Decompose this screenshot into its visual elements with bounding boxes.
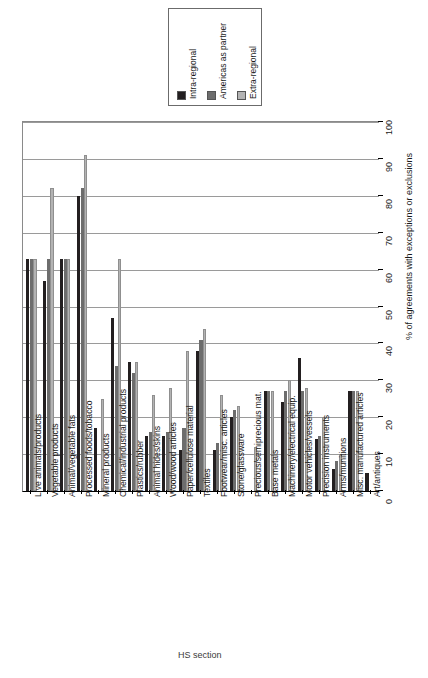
value-tick-label-text: 90 (384, 162, 394, 172)
value-tick-60 (378, 269, 383, 270)
bar-0-4 (94, 428, 97, 491)
value-tick-label-100: 100 (384, 135, 399, 145)
category-label-text: Stone/glassware (237, 433, 246, 497)
category-tick-6 (132, 490, 133, 494)
category-label-text: Plastics/rubber (136, 440, 145, 497)
value-tick-50 (378, 306, 383, 307)
legend-label-2: Extra-regional (248, 99, 301, 109)
chart-legend: Intra-regionalAmericas as partnerExtra-r… (168, 8, 262, 106)
value-axis-title-text: % of agreements with exceptions or exclu… (404, 153, 414, 340)
category-tick-2 (64, 490, 65, 494)
value-tick-70 (378, 232, 383, 233)
bar-0-20 (365, 473, 368, 491)
category-label-text: Chemical/industrial products (119, 389, 128, 497)
category-label-20: Art/antiques (373, 497, 419, 506)
value-tick-20 (378, 416, 383, 417)
category-tick-15 (285, 490, 286, 494)
value-tick-label-text: 70 (384, 236, 394, 246)
value-tick-80 (378, 195, 383, 196)
category-tick-9 (183, 490, 184, 494)
category-label-text: Animal/vegetable fats (68, 415, 77, 497)
value-tick-30 (378, 379, 383, 380)
legend-label-text: Americas as partner (218, 23, 228, 99)
value-tick-label-30: 30 (384, 393, 394, 403)
category-axis-title-text: HS section (178, 650, 222, 660)
category-tick-3 (81, 490, 82, 494)
value-tick-label-50: 50 (384, 320, 394, 330)
category-label-text: Precious/semiprecious mat. (254, 391, 263, 497)
category-tick-18 (336, 490, 337, 494)
category-tick-17 (319, 490, 320, 494)
value-tick-label-90: 90 (384, 172, 394, 182)
category-axis-title: HS section (178, 650, 222, 660)
category-label-text: Wood/wood articles (169, 422, 178, 497)
value-tick-90 (378, 158, 383, 159)
category-tick-13 (251, 490, 252, 494)
value-tick-label-70: 70 (384, 246, 394, 256)
category-label-text: Base metals (271, 450, 280, 497)
category-tick-1 (47, 490, 48, 494)
category-label-text: Textiles (203, 468, 212, 497)
category-label-text: Processed foods/tobacco (85, 401, 94, 498)
value-tick-label-text: 20 (384, 420, 394, 430)
category-tick-0 (30, 490, 31, 494)
legend-label-text: Extra-regional (248, 46, 258, 99)
category-tick-5 (115, 490, 116, 494)
category-tick-20 (370, 490, 371, 494)
value-tick-label-text: 30 (384, 383, 394, 393)
value-axis-title: % of agreements with exceptions or exclu… (404, 340, 428, 350)
category-tick-16 (302, 490, 303, 494)
category-tick-12 (234, 490, 235, 494)
category-tick-11 (217, 490, 218, 494)
category-label-text: Precision instruments (322, 415, 331, 497)
value-tick-label-text: 10 (384, 457, 394, 467)
category-label-text: Paper/cellulose material (186, 405, 195, 497)
category-label-text: Live animals/products (34, 414, 43, 497)
category-label-text: Misc. manufactured articles (356, 392, 365, 497)
category-label-text: Art/antiques (373, 451, 382, 497)
value-tick-label-text: 100 (384, 120, 394, 135)
category-tick-8 (166, 490, 167, 494)
category-tick-19 (353, 490, 354, 494)
category-label-text: Arms/munitions (339, 438, 348, 497)
legend-swatch-1 (207, 91, 216, 100)
category-tick-10 (200, 490, 201, 494)
category-label-text: Animal hides/skins (153, 426, 162, 497)
value-tick-label-20: 20 (384, 430, 394, 440)
legend-swatch-0 (177, 91, 186, 100)
legend-swatch-2 (237, 91, 246, 100)
category-label-text: Vegetable products (51, 423, 60, 497)
value-tick-100 (378, 121, 383, 122)
legend-label-text: Intra-regional (188, 49, 198, 99)
category-label-text: Mineral products (102, 433, 111, 497)
category-tick-14 (268, 490, 269, 494)
category-label-text: Machinery/electrical equip. (288, 395, 297, 497)
bar-2-10 (203, 329, 206, 491)
category-tick-7 (149, 490, 150, 494)
category-label-text: Footwear/misc. articles (220, 409, 229, 497)
value-tick-label-60: 60 (384, 283, 394, 293)
value-tick-label-40: 40 (384, 356, 394, 366)
value-tick-label-text: 80 (384, 199, 394, 209)
value-tick-label-10: 10 (384, 467, 394, 477)
gridline-100 (23, 122, 379, 123)
value-tick-label-text: 60 (384, 273, 394, 283)
gridline-90 (23, 159, 379, 160)
value-tick-label-text: 50 (384, 309, 394, 319)
value-tick-label-80: 80 (384, 209, 394, 219)
category-label-text: Motor vehicles/vessels (305, 411, 314, 497)
value-tick-40 (378, 342, 383, 343)
category-tick-4 (98, 490, 99, 494)
value-tick-label-text: 40 (384, 346, 394, 356)
